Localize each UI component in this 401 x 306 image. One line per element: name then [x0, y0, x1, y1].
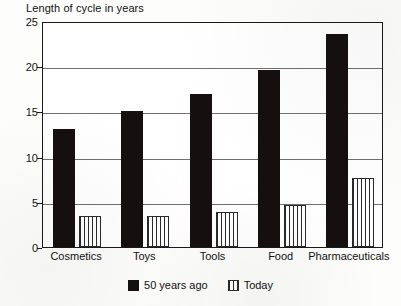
legend-item-50-years-ago[interactable]: 50 years ago — [128, 279, 208, 291]
solid-black-square-icon — [128, 280, 139, 291]
bar-cosmetics-today — [79, 216, 101, 247]
y-tick-mark-0 — [37, 248, 42, 249]
x-label-tools: Tools — [200, 250, 226, 262]
y-axis-tick-labels: 0510152025 — [4, 22, 38, 248]
bar-toys-50-years-ago — [121, 111, 143, 247]
chart-screenshot: Length of cycle in years 0510152025 Cosm… — [0, 0, 401, 306]
y-tick-label-20: 20 — [14, 62, 38, 73]
chart-title: Length of cycle in years — [26, 2, 144, 14]
bar-tools-today — [216, 212, 238, 247]
bar-pharmaceuticals-50-years-ago — [326, 34, 348, 247]
plot-area — [42, 22, 383, 248]
hatched-square-icon — [228, 280, 239, 291]
bar-pharmaceuticals-today — [352, 178, 374, 247]
bar-tools-50-years-ago — [190, 94, 212, 247]
x-label-pharmaceuticals: Pharmaceuticals — [308, 250, 389, 262]
y-tick-label-15: 15 — [14, 107, 38, 118]
legend-item-today[interactable]: Today — [228, 279, 273, 291]
x-axis-category-labels: CosmeticsToysToolsFoodPharmaceuticals — [42, 250, 383, 266]
bar-food-today — [284, 205, 306, 247]
bar-food-50-years-ago — [258, 70, 280, 247]
legend-label: 50 years ago — [144, 279, 208, 291]
x-label-food: Food — [268, 250, 293, 262]
x-label-cosmetics: Cosmetics — [50, 250, 101, 262]
bar-cosmetics-50-years-ago — [53, 129, 75, 247]
legend-label: Today — [244, 279, 273, 291]
y-tick-label-10: 10 — [14, 152, 38, 163]
y-tick-label-0: 0 — [14, 243, 38, 254]
chart-legend: 50 years agoToday — [0, 279, 401, 291]
bar-toys-today — [147, 216, 169, 247]
y-tick-label-5: 5 — [14, 197, 38, 208]
x-label-toys: Toys — [133, 250, 156, 262]
y-tick-label-25: 25 — [14, 17, 38, 28]
